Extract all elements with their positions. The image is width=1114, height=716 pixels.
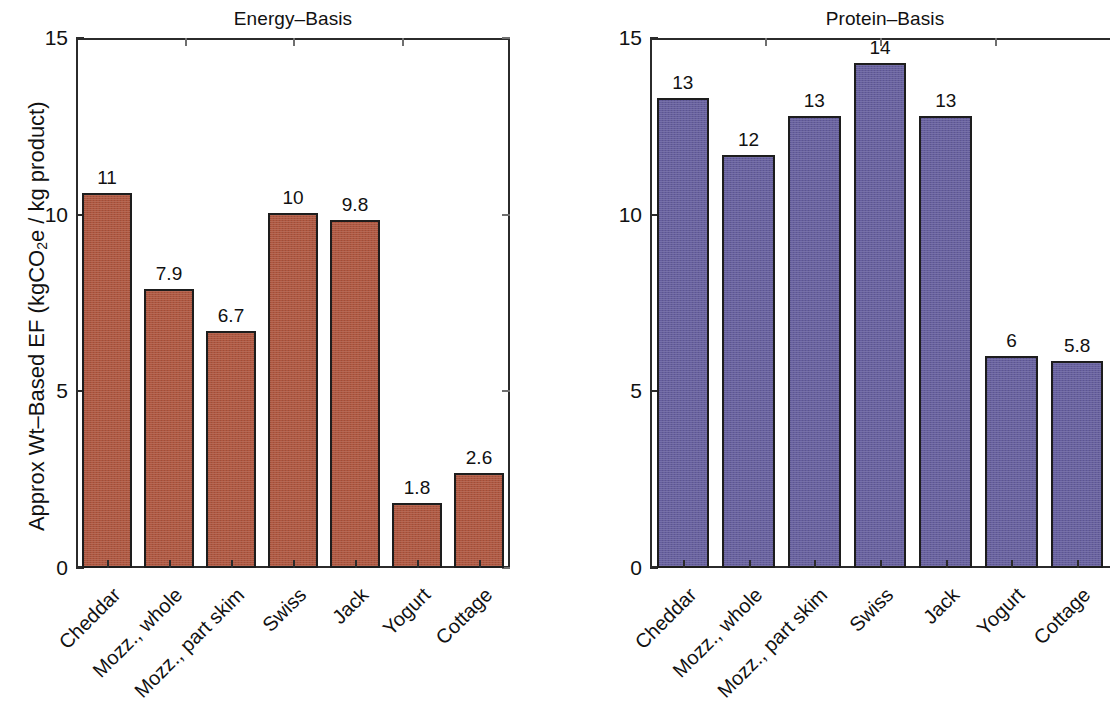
x-axis-category-label: Cottage xyxy=(1029,583,1095,649)
x-axis-category-label: Swiss xyxy=(258,583,311,636)
x-axis-category-label: Yogurt xyxy=(378,583,435,640)
x-axis-category-labels-energy-basis: CheddarMozz., wholeMozz., part skimSwiss… xyxy=(0,0,560,716)
chart-panel-energy-basis: Energy–Basis Approx Wt–Based EF (kgCO2e … xyxy=(0,0,560,716)
chart-panel-protein-basis: Protein–Basis 051015 131213141365.8 Ched… xyxy=(560,0,1087,716)
x-axis-category-label: Yogurt xyxy=(973,583,1030,640)
x-axis-category-label: Swiss xyxy=(845,583,898,636)
x-axis-category-label: Jack xyxy=(918,583,963,628)
x-axis-category-label: Jack xyxy=(328,583,373,628)
x-axis-category-label: Mozz., part skim xyxy=(130,583,249,702)
x-axis-category-label: Cottage xyxy=(431,583,497,649)
x-axis-category-labels-protein-basis: CheddarMozz., wholeMozz., part skimSwiss… xyxy=(560,0,1087,716)
